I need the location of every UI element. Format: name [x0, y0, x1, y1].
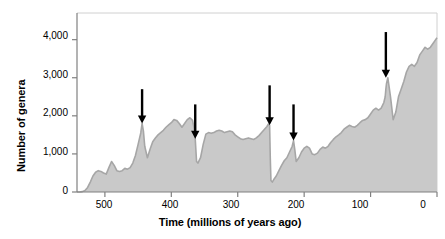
plot-area [0, 0, 445, 239]
diversity-chart: Number of genera 4,000 3,000 2,000 1,000… [0, 0, 445, 239]
end-ordovician-extinction-arrow [138, 89, 146, 123]
end-permian-extinction-arrow [265, 85, 273, 125]
diversity-curve-area [77, 38, 437, 192]
end-cretaceous-extinction-arrow [382, 32, 390, 78]
end-triassic-extinction-arrow [289, 104, 297, 140]
